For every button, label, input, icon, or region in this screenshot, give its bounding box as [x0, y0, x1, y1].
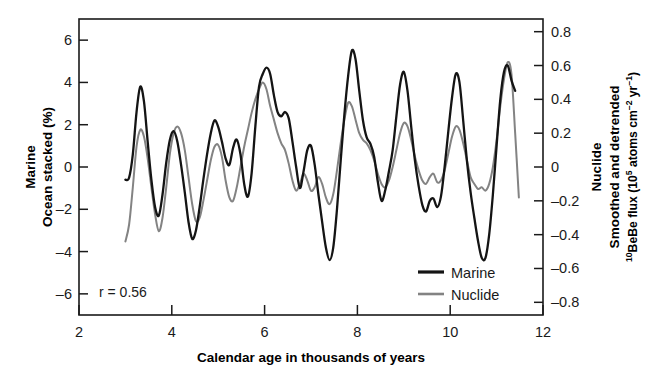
- legend-label-nuclide: Nuclide: [451, 287, 499, 303]
- left-axis-ticks: 6420–2–4–6: [56, 32, 88, 302]
- right-tick-label: –0.8: [551, 294, 579, 310]
- x-tick-label: 6: [261, 324, 269, 340]
- x-tick-label: 2: [75, 324, 83, 340]
- correlation-line-chart: 6420–2–4–6 0.80.60.40.20–0.2–0.4–0.6–0.8…: [0, 0, 657, 385]
- cm-exponent: –2: [624, 100, 634, 110]
- left-tick-label: –4: [56, 244, 72, 260]
- be-mass-number: 10: [624, 252, 634, 262]
- left-axis-title-line2: Ocean stacked (%): [40, 107, 55, 227]
- right-tick-label: 0.2: [551, 125, 571, 141]
- yr-text: yr: [626, 85, 640, 100]
- x-tick-label: 8: [353, 324, 361, 340]
- right-axis-title: Nuclide Smoothed and detrended 10BeBe fl…: [589, 72, 640, 262]
- x-tick-label: 10: [442, 324, 458, 340]
- left-tick-label: 6: [64, 32, 72, 48]
- legend-label-marine: Marine: [451, 265, 495, 281]
- close-paren: ): [626, 72, 640, 76]
- right-tick-label: –0.2: [551, 193, 579, 209]
- right-tick-label: 0.4: [551, 91, 571, 107]
- left-axis-title: Marine Ocean stacked (%): [23, 107, 55, 227]
- right-tick-label: 0.6: [551, 58, 571, 74]
- right-axis-title-line2: Smoothed and detrended: [607, 86, 622, 249]
- x-tick-label: 12: [535, 324, 551, 340]
- right-tick-label: –0.6: [551, 260, 579, 276]
- right-tick-label: 0: [551, 159, 559, 175]
- atoms-text: atoms cm: [626, 110, 640, 170]
- right-axis-title-line1: Nuclide: [589, 142, 604, 191]
- be-symbol: Be: [626, 237, 640, 253]
- left-tick-label: 2: [64, 117, 72, 133]
- left-tick-label: –2: [56, 201, 72, 217]
- yr-exponent: –1: [624, 76, 634, 86]
- x-axis-title: Calendar age in thousands of years: [197, 350, 425, 365]
- right-tick-label: 0.8: [551, 24, 571, 40]
- left-tick-label: –6: [56, 286, 72, 302]
- right-tick-label: –0.4: [551, 227, 579, 243]
- left-axis-title-line1: Marine: [23, 145, 38, 189]
- series-line-marine: [125, 50, 515, 261]
- figure-container: 6420–2–4–6 0.80.60.40.20–0.2–0.4–0.6–0.8…: [0, 0, 657, 385]
- x-axis-ticks: 24681012: [75, 305, 551, 340]
- right-axis-title-line3: 10BeBe flux (105 atoms cm–2 yr–1): [624, 72, 640, 262]
- right-axis-ticks: 0.80.60.40.20–0.2–0.4–0.6–0.8: [534, 24, 579, 311]
- x-tick-label: 4: [168, 324, 176, 340]
- legend: MarineNuclide: [418, 265, 499, 303]
- left-tick-label: 0: [64, 159, 72, 175]
- data-series-group: [125, 50, 518, 261]
- flux-text: Be flux (10: [626, 175, 640, 237]
- correlation-annotation: r = 0.56: [99, 284, 147, 300]
- left-tick-label: 4: [64, 74, 72, 90]
